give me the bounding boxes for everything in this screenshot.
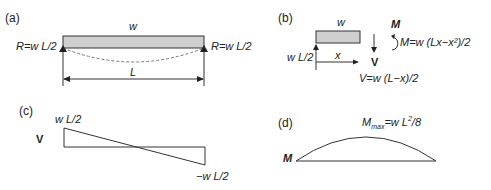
moment-max-label: Mmax=w L2/8 — [362, 115, 421, 130]
moment-arc-icon — [392, 37, 398, 50]
shear-label-b: V — [371, 57, 378, 68]
panel-a-tag: (a) — [5, 12, 20, 24]
right-reaction-label: R=w L/2 — [211, 41, 252, 52]
deflection-curve — [63, 48, 204, 62]
load-label-b: w — [337, 17, 345, 28]
moment-axis-label: M — [283, 153, 292, 164]
shear-max-label: w L/2 — [55, 114, 81, 125]
reaction-arrow-icon — [313, 44, 319, 50]
load-label-a: w — [129, 21, 137, 32]
reaction-label-b: w L/2 — [287, 52, 313, 63]
moment-equation: M=w (Lx−x²)/2 — [400, 37, 470, 48]
diagram-canvas — [0, 0, 491, 190]
panel-d-tag: (d) — [278, 117, 293, 129]
moment-label-b: M — [391, 19, 400, 30]
shear-equation: V=w (L−x)/2 — [359, 73, 418, 84]
panel-b-tag: (b) — [278, 12, 293, 24]
shear-min-label: −w L/2 — [196, 171, 229, 182]
shear-axis-label: V — [36, 134, 43, 145]
span-label: L — [130, 67, 136, 78]
moment-parabola — [296, 137, 436, 161]
left-reaction-label: R=w L/2 — [16, 41, 57, 52]
x-label: x — [335, 50, 341, 61]
panel-c-tag: (c) — [19, 105, 33, 117]
beam-a — [63, 36, 204, 48]
beam-segment-b — [316, 31, 360, 43]
